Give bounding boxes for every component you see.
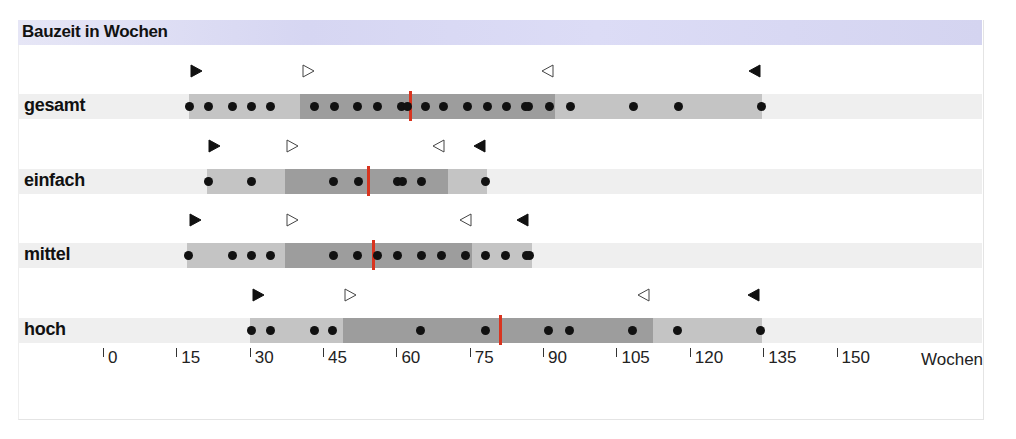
triangle-open-right-icon — [301, 64, 315, 78]
range-box-light — [653, 318, 762, 343]
data-point — [228, 251, 237, 260]
row-label-gesamt: gesamt — [24, 95, 85, 116]
x-tick: 105 — [616, 348, 649, 368]
data-point — [565, 326, 574, 335]
triangle-open-right-icon — [285, 139, 299, 153]
triangle-filled-right-icon — [207, 139, 221, 153]
data-point — [247, 102, 256, 111]
data-point — [628, 326, 637, 335]
chart-title: Bauzeit in Wochen — [22, 22, 168, 42]
data-point — [403, 102, 412, 111]
x-tick: 15 — [176, 348, 200, 368]
data-point — [757, 102, 766, 111]
data-point — [421, 102, 430, 111]
triangle-filled-right-icon — [189, 64, 203, 78]
triangle-filled-right-icon — [251, 288, 265, 302]
data-point — [184, 251, 193, 260]
data-point — [204, 177, 213, 186]
data-point — [247, 251, 256, 260]
data-point — [266, 251, 275, 260]
data-point — [266, 326, 275, 335]
range-box-light — [555, 94, 762, 119]
x-axis-label: Wochen — [921, 350, 983, 370]
row-label-mittel: mittel — [24, 244, 70, 265]
data-point — [310, 326, 319, 335]
row-band-einfach — [18, 169, 982, 194]
median-line — [499, 315, 502, 345]
x-tick: 150 — [837, 348, 870, 368]
triangle-filled-left-icon — [748, 64, 762, 78]
data-point — [629, 102, 638, 111]
data-point — [673, 326, 682, 335]
triangle-open-left-icon — [637, 288, 651, 302]
data-point — [204, 102, 213, 111]
triangle-filled-right-icon — [188, 213, 202, 227]
row-label-einfach: einfach — [24, 170, 85, 191]
triangle-filled-left-icon — [516, 213, 530, 227]
triangle-open-right-icon — [285, 213, 299, 227]
data-point — [674, 102, 683, 111]
data-point — [266, 102, 275, 111]
data-point — [566, 102, 575, 111]
data-point — [228, 102, 237, 111]
triangle-filled-left-icon — [747, 288, 761, 302]
row-label-hoch: hoch — [24, 319, 66, 340]
x-tick: 30 — [250, 348, 274, 368]
triangle-open-left-icon — [459, 213, 473, 227]
x-tick: 75 — [470, 348, 494, 368]
x-tick: 120 — [690, 348, 723, 368]
x-tick: 60 — [396, 348, 420, 368]
data-point — [185, 102, 194, 111]
triangle-open-right-icon — [343, 288, 357, 302]
triangle-filled-left-icon — [473, 139, 487, 153]
data-point — [247, 326, 256, 335]
x-tick: 135 — [763, 348, 796, 368]
x-tick: 90 — [543, 348, 567, 368]
data-point — [247, 177, 256, 186]
x-tick: 45 — [323, 348, 347, 368]
x-tick: 0 — [103, 348, 117, 368]
triangle-open-left-icon — [541, 64, 555, 78]
triangle-open-left-icon — [432, 139, 446, 153]
data-point — [756, 326, 765, 335]
median-line — [367, 166, 370, 196]
